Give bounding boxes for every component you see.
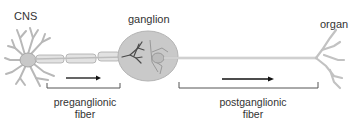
- neuron-pathway-diagram: CNS ganglion organ preganglionic fiber p…: [0, 0, 357, 121]
- caption-line: fiber: [45, 108, 125, 120]
- organ-label: organ: [320, 18, 348, 30]
- arrow-icon: [222, 77, 274, 82]
- postganglionic-fiber-caption: postganglionic fiber: [208, 96, 298, 120]
- preganglionic-bracket: [47, 83, 120, 88]
- ganglion-label: ganglion: [128, 13, 170, 25]
- cns-label: CNS: [14, 10, 37, 22]
- postganglionic-bracket: [179, 82, 318, 88]
- caption-line: preganglionic: [45, 96, 125, 108]
- arrow-icon: [66, 76, 101, 81]
- caption-line: postganglionic: [208, 96, 298, 108]
- caption-line: fiber: [208, 108, 298, 120]
- cns-cell-body: [20, 53, 36, 67]
- preganglionic-fiber-caption: preganglionic fiber: [45, 96, 125, 120]
- organ-terminal-branches: [316, 30, 344, 88]
